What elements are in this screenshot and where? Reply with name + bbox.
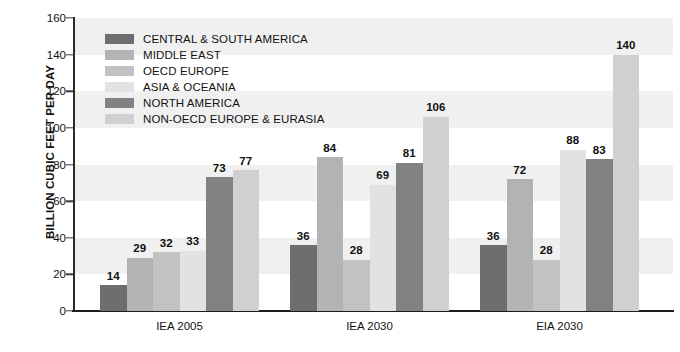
legend-item[interactable]: ASIA & OCEANIA xyxy=(105,79,324,94)
legend-item[interactable]: NORTH AMERICA xyxy=(105,95,324,110)
bar-value-label: 33 xyxy=(186,236,199,248)
bar[interactable]: 28 xyxy=(533,260,560,311)
bar[interactable]: 29 xyxy=(127,258,154,311)
y-tick-label: 40 xyxy=(32,232,66,244)
x-tick-label: IEA 2030 xyxy=(346,320,393,332)
legend-label: NORTH AMERICA xyxy=(143,97,240,109)
bar[interactable]: 36 xyxy=(480,245,507,311)
legend-swatch xyxy=(105,66,134,76)
bar-value-label: 77 xyxy=(239,156,252,168)
bar[interactable]: 32 xyxy=(153,252,180,311)
y-tick-label: 160 xyxy=(32,12,66,24)
bar[interactable]: 33 xyxy=(180,251,207,311)
y-tick-mark xyxy=(66,164,73,165)
bar[interactable]: 84 xyxy=(317,157,344,311)
y-tick-mark xyxy=(66,91,73,92)
y-tick-label: 140 xyxy=(32,49,66,61)
y-axis-tick-labels: 020406080100120140160 xyxy=(30,0,66,352)
legend-swatch xyxy=(105,98,134,108)
bar-group: 3672288883140 xyxy=(480,18,639,311)
y-tick-mark xyxy=(66,310,73,311)
bar[interactable]: 77 xyxy=(233,170,260,311)
bar-value-label: 36 xyxy=(297,231,310,243)
x-tick-label: EIA 2030 xyxy=(536,320,583,332)
legend-item[interactable]: MIDDLE EAST xyxy=(105,47,324,62)
y-tick-label: 0 xyxy=(32,305,66,317)
y-tick-mark xyxy=(66,127,73,128)
y-axis-line xyxy=(73,17,75,312)
bar-value-label: 84 xyxy=(323,143,336,155)
bar-value-label: 83 xyxy=(593,145,606,157)
legend-label: MIDDLE EAST xyxy=(143,49,221,61)
legend-label: ASIA & OCEANIA xyxy=(143,81,236,93)
legend-swatch xyxy=(105,114,134,124)
y-tick-label: 20 xyxy=(32,268,66,280)
bar[interactable]: 140 xyxy=(613,55,640,311)
bar[interactable]: 73 xyxy=(206,177,233,311)
legend: CENTRAL & SOUTH AMERICAMIDDLE EASTOECD E… xyxy=(105,31,324,126)
y-tick-label: 80 xyxy=(32,159,66,171)
bar[interactable]: 106 xyxy=(423,117,450,311)
bar-value-label: 72 xyxy=(513,165,526,177)
bar[interactable]: 88 xyxy=(560,150,587,311)
legend-item[interactable]: CENTRAL & SOUTH AMERICA xyxy=(105,31,324,46)
y-tick-label: 100 xyxy=(32,122,66,134)
bar-value-label: 81 xyxy=(403,148,416,160)
bar-value-label: 28 xyxy=(540,245,553,257)
bar-value-label: 73 xyxy=(213,163,226,175)
bar[interactable]: 14 xyxy=(100,285,127,311)
bar-value-label: 106 xyxy=(426,102,445,114)
bar-value-label: 140 xyxy=(616,40,635,52)
legend-item[interactable]: NON-OECD EUROPE & EURASIA xyxy=(105,111,324,126)
legend-swatch xyxy=(105,50,134,60)
legend-label: CENTRAL & SOUTH AMERICA xyxy=(143,33,308,45)
bar-value-label: 69 xyxy=(376,170,389,182)
bar[interactable]: 28 xyxy=(343,260,370,311)
bar-value-label: 29 xyxy=(133,243,146,255)
bar-value-label: 32 xyxy=(160,238,173,250)
y-tick-label: 120 xyxy=(32,85,66,97)
y-tick-mark xyxy=(66,274,73,275)
legend-swatch xyxy=(105,82,134,92)
y-tick-mark xyxy=(66,200,73,201)
bar-value-label: 14 xyxy=(107,271,120,283)
legend-swatch xyxy=(105,34,134,44)
bar[interactable]: 69 xyxy=(370,185,397,311)
y-tick-label: 60 xyxy=(32,195,66,207)
bar-value-label: 36 xyxy=(487,231,500,243)
bar[interactable]: 36 xyxy=(290,245,317,311)
y-tick-mark xyxy=(66,54,73,55)
bar[interactable]: 83 xyxy=(586,159,613,311)
bar-chart: BILLION CUBIC FEET PER DAY 0204060801001… xyxy=(0,0,680,352)
bar[interactable]: 81 xyxy=(396,163,423,311)
legend-label: NON-OECD EUROPE & EURASIA xyxy=(143,113,324,125)
y-tick-mark xyxy=(66,237,73,238)
y-tick-mark xyxy=(66,17,73,18)
bar[interactable]: 72 xyxy=(507,179,534,311)
x-tick-label: IEA 2005 xyxy=(156,320,203,332)
bar-value-label: 28 xyxy=(350,245,363,257)
legend-label: OECD EUROPE xyxy=(143,65,229,77)
bar-value-label: 88 xyxy=(566,135,579,147)
legend-item[interactable]: OECD EUROPE xyxy=(105,63,324,78)
